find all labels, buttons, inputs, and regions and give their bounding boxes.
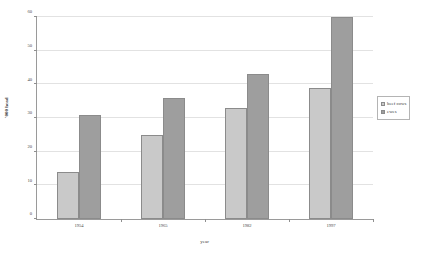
y-tick-mark	[34, 50, 37, 51]
x-tick-label: 1997	[326, 224, 335, 229]
y-tick-label: 50	[27, 44, 32, 49]
legend-item[interactable]: beef cows	[381, 100, 406, 108]
bar	[79, 115, 101, 219]
y-tick-mark	[34, 184, 37, 185]
plot-area: 0102030405060 1954196519821997	[36, 17, 373, 220]
y-tick-mark	[34, 83, 37, 84]
bar	[141, 135, 163, 219]
x-tick-label: 1982	[242, 224, 251, 229]
legend-swatch-icon	[381, 110, 385, 114]
gridline	[37, 50, 373, 51]
bar	[331, 17, 353, 219]
x-tick-label: 1965	[158, 224, 167, 229]
bar	[309, 88, 331, 219]
bar	[57, 172, 79, 219]
y-tick-mark	[34, 218, 37, 219]
y-tick-label: 60	[27, 10, 32, 15]
y-tick-label: 20	[27, 145, 32, 150]
y-tick-label: 0	[30, 212, 32, 217]
x-tick-mark	[289, 219, 290, 222]
gridline	[37, 16, 373, 17]
bar	[163, 98, 185, 219]
chart-figure: 0102030405060 1954196519821997 '000 head…	[0, 0, 431, 258]
legend-label: ewes	[387, 110, 397, 115]
y-tick-label: 40	[27, 77, 32, 82]
y-tick-label: 30	[27, 111, 32, 116]
x-tick-mark	[205, 219, 206, 222]
y-tick-label: 10	[27, 178, 32, 183]
legend-swatch-icon	[381, 102, 385, 106]
y-tick-mark	[34, 117, 37, 118]
x-tick-label: 1954	[74, 224, 83, 229]
y-tick-mark	[34, 151, 37, 152]
y-axis-title: '000 head	[4, 98, 9, 118]
y-tick-mark	[34, 16, 37, 17]
gridline	[37, 83, 373, 84]
x-tick-mark	[121, 219, 122, 222]
x-tick-mark	[373, 219, 374, 222]
legend-label: beef cows	[387, 102, 406, 107]
chart-legend: beef cowsewes	[377, 96, 410, 120]
bar	[225, 108, 247, 219]
bar	[247, 74, 269, 219]
x-axis-title: year	[0, 239, 409, 244]
legend-item[interactable]: ewes	[381, 108, 406, 116]
